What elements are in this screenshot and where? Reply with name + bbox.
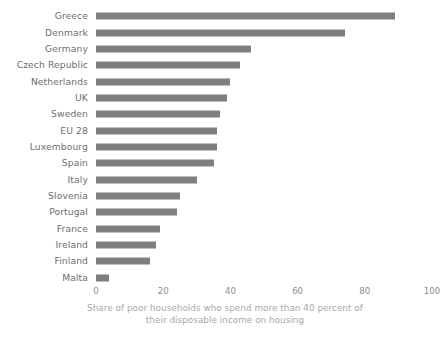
bar-category-label: Czech Republic bbox=[17, 61, 88, 70]
bar bbox=[96, 45, 251, 52]
x-axis-tick-label: 0 bbox=[93, 287, 98, 296]
bar bbox=[96, 62, 240, 69]
chart-bar-row: Germany bbox=[0, 41, 447, 57]
bar bbox=[96, 111, 220, 118]
bar bbox=[96, 94, 227, 101]
bar-category-label: Sweden bbox=[51, 110, 88, 119]
bar bbox=[96, 29, 345, 36]
chart-bar-row: Luxembourg bbox=[0, 139, 447, 155]
bar-track bbox=[96, 143, 432, 150]
bar bbox=[96, 143, 217, 150]
bar-track bbox=[96, 127, 432, 134]
bar bbox=[96, 192, 180, 199]
bar-track bbox=[96, 62, 432, 69]
chart-bar-row: Sweden bbox=[0, 106, 447, 122]
x-axis-tick-label: 20 bbox=[158, 287, 169, 296]
chart-bar-row: Greece bbox=[0, 8, 447, 24]
caption-line-1: Share of poor households who spend more … bbox=[60, 303, 390, 315]
bar-track bbox=[96, 209, 432, 216]
chart-caption: Share of poor households who spend more … bbox=[60, 303, 390, 326]
chart-bar-row: Czech Republic bbox=[0, 57, 447, 73]
chart-bar-row: Portugal bbox=[0, 204, 447, 220]
bar-category-label: Netherlands bbox=[31, 77, 88, 86]
bar-track bbox=[96, 241, 432, 248]
bar bbox=[96, 241, 156, 248]
bar-category-label: Spain bbox=[62, 159, 88, 168]
chart-bar-row: Slovenia bbox=[0, 188, 447, 204]
chart-bar-row: Ireland bbox=[0, 237, 447, 253]
bar-track bbox=[96, 176, 432, 183]
chart-plot-area: GreeceDenmarkGermanyCzech RepublicNether… bbox=[0, 8, 447, 286]
chart-bar-row: Netherlands bbox=[0, 73, 447, 89]
x-axis-tick-label: 60 bbox=[292, 287, 303, 296]
chart-bar-row: Spain bbox=[0, 155, 447, 171]
bar bbox=[96, 258, 150, 265]
bar-category-label: Germany bbox=[45, 44, 88, 53]
bar bbox=[96, 225, 160, 232]
bar-track bbox=[96, 274, 432, 281]
bar-track bbox=[96, 78, 432, 85]
bar bbox=[96, 176, 197, 183]
bar-category-label: France bbox=[57, 224, 88, 233]
chart-bar-row: EU 28 bbox=[0, 122, 447, 138]
bar bbox=[96, 160, 214, 167]
bar-track bbox=[96, 111, 432, 118]
bar-track bbox=[96, 160, 432, 167]
x-axis: 020406080100 bbox=[96, 287, 432, 301]
chart-bar-row: Malta bbox=[0, 270, 447, 286]
bar-track bbox=[96, 29, 432, 36]
bar-category-label: Greece bbox=[55, 12, 88, 21]
bar-category-label: UK bbox=[75, 93, 88, 102]
caption-line-2: their disposable income on housing bbox=[60, 315, 390, 327]
bar-category-label: Italy bbox=[68, 175, 88, 184]
bar-category-label: Ireland bbox=[56, 240, 88, 249]
bar bbox=[96, 78, 230, 85]
bar-category-label: Slovenia bbox=[48, 191, 88, 200]
x-axis-tick-label: 80 bbox=[359, 287, 370, 296]
bar-track bbox=[96, 225, 432, 232]
chart-bar-row: Denmark bbox=[0, 24, 447, 40]
bar-category-label: Finland bbox=[54, 257, 88, 266]
bar bbox=[96, 127, 217, 134]
bar-category-label: Denmark bbox=[45, 28, 88, 37]
chart-bar-row: Finland bbox=[0, 253, 447, 269]
bar bbox=[96, 13, 395, 20]
bar-track bbox=[96, 192, 432, 199]
bar-track bbox=[96, 258, 432, 265]
bar-category-label: Malta bbox=[62, 273, 88, 282]
bar-chart: GreeceDenmarkGermanyCzech RepublicNether… bbox=[0, 0, 447, 338]
bar-track bbox=[96, 94, 432, 101]
bar-track bbox=[96, 13, 432, 20]
bar-category-label: Luxembourg bbox=[30, 142, 88, 151]
bar bbox=[96, 209, 177, 216]
x-axis-tick-label: 40 bbox=[225, 287, 236, 296]
x-axis-tick-label: 100 bbox=[424, 287, 440, 296]
chart-bar-row: UK bbox=[0, 90, 447, 106]
chart-bar-row: Italy bbox=[0, 171, 447, 187]
chart-bar-row: France bbox=[0, 220, 447, 236]
bar-category-label: EU 28 bbox=[60, 126, 88, 135]
bar bbox=[96, 274, 109, 281]
bar-track bbox=[96, 45, 432, 52]
bar-category-label: Portugal bbox=[49, 208, 88, 217]
